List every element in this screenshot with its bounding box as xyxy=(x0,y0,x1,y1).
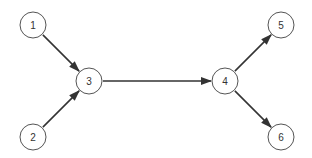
edge-4-to-6 xyxy=(235,91,271,127)
edge-2-to-3 xyxy=(43,91,79,127)
edge-4-to-5 xyxy=(235,35,271,71)
node-label: 4 xyxy=(222,76,228,87)
node-label: 6 xyxy=(278,132,284,143)
node-5: 5 xyxy=(268,12,294,38)
node-label: 1 xyxy=(30,20,36,31)
graph-diagram: 123456 xyxy=(0,0,312,158)
node-label: 5 xyxy=(278,20,284,31)
edge-1-to-3 xyxy=(43,35,79,71)
node-label: 2 xyxy=(30,132,36,143)
node-6: 6 xyxy=(268,124,294,150)
node-3: 3 xyxy=(76,68,102,94)
node-4: 4 xyxy=(212,68,238,94)
node-2: 2 xyxy=(20,124,46,150)
node-label: 3 xyxy=(86,76,92,87)
node-1: 1 xyxy=(20,12,46,38)
